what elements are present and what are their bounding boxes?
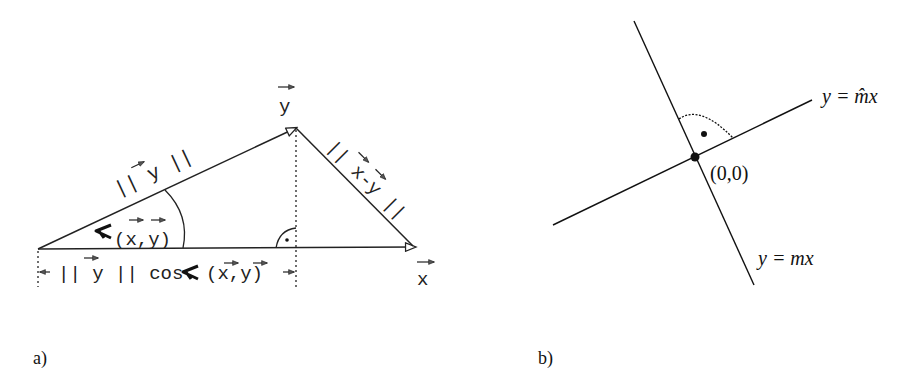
angle-label-group: (x,y)	[96, 220, 171, 251]
origin-point	[691, 153, 700, 162]
line-m-label: y = mx	[756, 247, 814, 270]
projection-angle-symbol-icon	[183, 266, 198, 279]
angle-label: (x,y)	[114, 229, 171, 251]
origin-label: (0,0)	[710, 162, 748, 185]
norm-y-group: || y ||	[110, 142, 197, 201]
vector-x-label: x	[417, 269, 428, 291]
projection-label-suffix: (x,y)	[206, 263, 263, 285]
angle-symbol-icon	[96, 225, 111, 238]
diagram-canvas: y x || y || || x-y || (x,y) || y || cos	[0, 0, 924, 385]
projection-label-group: || y || cos (x,y)	[40, 258, 294, 285]
vector-x-line	[38, 247, 415, 249]
perpendicular-dot	[701, 131, 707, 137]
panel-b-label: b)	[538, 348, 553, 369]
line-mhat-label: y = m̂x	[820, 85, 878, 108]
panel-a: y x || y || || x-y || (x,y) || y || cos	[38, 87, 434, 291]
panel-b: (0,0) y = m̂x y = mx	[553, 21, 878, 285]
norm-diff-label: || x-y ||	[322, 137, 410, 225]
right-angle-dot	[285, 238, 289, 242]
vector-diff-line	[296, 128, 413, 246]
norm-y-label: || y ||	[111, 145, 197, 201]
projection-label-prefix: || y || cos	[58, 263, 183, 285]
right-angle-arc	[276, 228, 296, 248]
vector-y-label: y	[279, 96, 290, 118]
line-y-equals-mhat-x	[553, 100, 812, 225]
panel-a-label: a)	[33, 348, 47, 369]
norm-diff-group: || x-y ||	[322, 134, 413, 225]
